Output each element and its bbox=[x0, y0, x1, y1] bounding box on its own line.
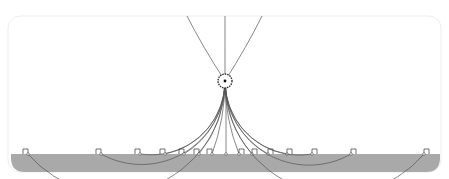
field-line bbox=[225, 81, 252, 154]
field-line bbox=[212, 81, 225, 154]
foot-point bbox=[164, 153, 167, 156]
field-line-escaping bbox=[187, 16, 225, 81]
conductor-plane bbox=[11, 154, 440, 172]
foot-point bbox=[423, 153, 426, 156]
field-line bbox=[140, 81, 225, 155]
foot-point bbox=[27, 153, 30, 156]
foot-point bbox=[198, 153, 201, 156]
charge-center-dot bbox=[224, 80, 227, 83]
field-line bbox=[101, 81, 225, 164]
field-line bbox=[225, 81, 312, 155]
foot-point bbox=[100, 153, 103, 156]
field-line bbox=[199, 81, 225, 154]
foot-point bbox=[238, 153, 241, 156]
field-line-escaping bbox=[225, 16, 262, 81]
foot-point bbox=[211, 153, 214, 156]
foot-point bbox=[139, 153, 142, 156]
foot-point bbox=[183, 153, 186, 156]
foot-point bbox=[311, 153, 314, 156]
field-line bbox=[225, 81, 268, 154]
foot-point bbox=[350, 153, 353, 156]
field-line-diagram bbox=[0, 0, 449, 179]
diagram-canvas bbox=[0, 0, 449, 179]
foot-point bbox=[225, 153, 228, 156]
field-line bbox=[225, 81, 239, 154]
